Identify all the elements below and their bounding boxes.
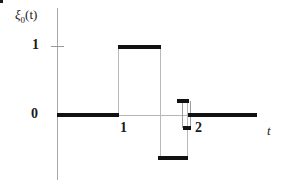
step-function-figure: ξ0(t) 1 0 1 - 2 t xyxy=(0,0,283,188)
annotation-dot-icon xyxy=(0,0,3,3)
x-tick-label-1: 1 xyxy=(120,121,127,135)
x-tick-label-2: 2 xyxy=(195,121,202,135)
signal-faller-to-negative xyxy=(160,46,161,158)
y-tick-label-1: 1 xyxy=(32,38,39,52)
signal-zero-right-segment xyxy=(188,113,257,117)
y-axis-label-argument: (t) xyxy=(25,7,37,22)
y-axis-label: ξ0(t) xyxy=(15,8,37,25)
signal-small-positive-segment xyxy=(177,99,189,103)
signal-negative-dip-segment xyxy=(158,156,188,160)
y-axis-tick-one xyxy=(51,46,64,47)
signal-plateau-one-segment xyxy=(118,45,161,49)
y-tick-label-0: 0 xyxy=(31,107,38,121)
minus-tick-mark: - xyxy=(186,119,190,132)
signal-zero-left-segment xyxy=(57,113,119,117)
signal-small-drop-edge xyxy=(182,101,183,128)
signal-riser-at-t1 xyxy=(118,46,119,115)
y-axis-line xyxy=(57,8,58,180)
x-axis-label: t xyxy=(267,124,271,137)
